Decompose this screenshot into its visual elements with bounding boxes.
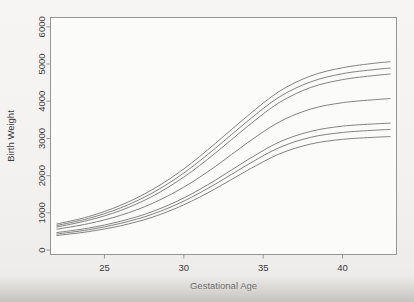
x-axis: 25303540 — [99, 255, 348, 273]
x-tick-label: 30 — [179, 262, 190, 273]
x-axis-title: Gestational Age — [190, 280, 257, 291]
y-axis: 0100020003000400050006000 — [36, 16, 50, 252]
y-tick-label: 6000 — [36, 16, 47, 37]
x-tick-label: 35 — [258, 262, 269, 273]
y-tick-label: 2000 — [36, 165, 47, 186]
y-tick-label: 3000 — [36, 128, 47, 149]
y-tick-label: 1000 — [36, 202, 47, 223]
x-tick-label: 40 — [337, 262, 348, 273]
y-tick-label: 4000 — [36, 91, 47, 112]
y-tick-label: 5000 — [36, 53, 47, 74]
x-tick-label: 25 — [99, 262, 110, 273]
y-axis-title: Birth Weight — [5, 110, 16, 162]
y-tick-label: 0 — [36, 247, 47, 252]
figure-container: 0100020003000400050006000 25303540 Gesta… — [0, 0, 414, 302]
growth-curve-chart: 0100020003000400050006000 25303540 Gesta… — [0, 0, 414, 302]
